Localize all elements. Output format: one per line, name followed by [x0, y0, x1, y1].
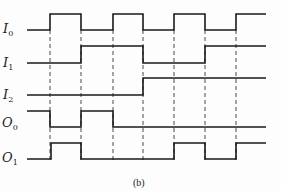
timing-diagram: I0 I1 I2 O0 O1 (b) — [0, 0, 281, 191]
label-i2: I2 — [3, 88, 13, 104]
label-i1: I1 — [3, 56, 13, 72]
waveform-o0 — [27, 111, 266, 127]
waveform-i1 — [27, 46, 266, 63]
label-i0: I0 — [3, 22, 13, 38]
label-o0: O0 — [2, 116, 18, 132]
waveform-canvas — [0, 0, 281, 191]
waveform-i0 — [27, 14, 266, 30]
waveform-o1 — [27, 143, 266, 159]
waveform-i2 — [27, 78, 266, 95]
figure-caption: (b) — [133, 177, 145, 188]
label-o1: O1 — [2, 151, 18, 167]
